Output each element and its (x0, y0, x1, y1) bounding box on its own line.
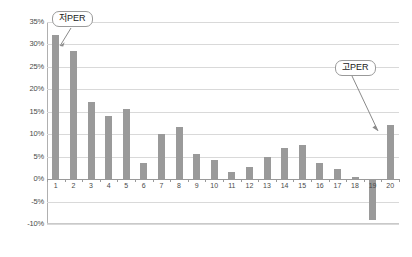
bar (140, 163, 147, 179)
y-axis-tick-label: -5% (31, 197, 44, 206)
bar (228, 172, 235, 179)
callout-low-per: 저PER (52, 11, 93, 27)
bar (246, 167, 253, 180)
callout-high-per: 고PER (335, 60, 376, 76)
y-axis-tick-label: -10% (27, 219, 44, 228)
y-axis-tick-label: 10% (30, 129, 44, 138)
bar (176, 127, 183, 179)
bar (88, 102, 95, 179)
y-axis-tick-label: 15% (30, 107, 44, 116)
y-axis-tick-label: 30% (30, 39, 44, 48)
bar (387, 125, 394, 179)
bar (299, 145, 306, 179)
chart-container: 35%30%25%20%15%10%5%0%-5%-10% 1234567891… (0, 0, 412, 257)
bar (193, 154, 200, 179)
bar (211, 160, 218, 179)
y-axis-tick-label: 35% (30, 17, 44, 26)
y-axis-tick-label: 0% (34, 174, 44, 183)
bar (264, 157, 271, 179)
bar (316, 163, 323, 179)
bar (105, 116, 112, 179)
bar (123, 109, 130, 179)
bar (352, 177, 359, 179)
bar (281, 148, 288, 179)
bar (334, 169, 341, 179)
y-axis-tick-label: 25% (30, 62, 44, 71)
bar (70, 51, 77, 179)
y-axis-tick-label: 20% (30, 84, 44, 93)
plot-area (47, 22, 399, 224)
x-axis-tick-label: 20 (380, 182, 400, 189)
bar-series (47, 22, 399, 224)
y-axis-tick-label: 5% (34, 152, 44, 161)
gridline (47, 224, 399, 225)
bar (158, 134, 165, 179)
bar (52, 35, 59, 179)
